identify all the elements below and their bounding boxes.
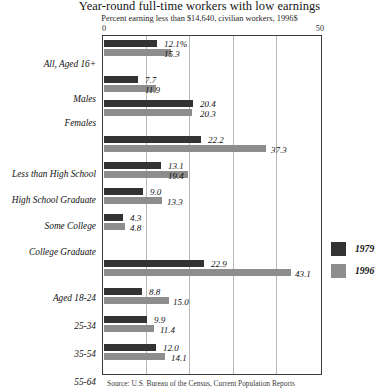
bar-35-54-1979 (104, 316, 147, 323)
category-label-35-54: 35-54 (2, 349, 96, 359)
value-label-females-1996: 20.3 (200, 110, 216, 119)
bar-all-aged-16-plus-1979 (104, 40, 157, 47)
gridline-40 (276, 36, 277, 374)
bar-females-1996 (104, 109, 192, 116)
legend-label-1996: 1996 (355, 265, 374, 277)
legend-entry-1979: 1979 (331, 240, 379, 262)
bar-college-graduate-1996 (104, 223, 125, 230)
value-label-males-1979: 7.7 (145, 76, 156, 85)
bar-55-64-1996 (104, 353, 165, 360)
bar-less-than-high-school-1996 (104, 145, 266, 152)
bar-less-than-high-school-1979 (104, 136, 201, 143)
category-label-less-than-high-school: Less than High School (2, 169, 96, 179)
bar-all-aged-16-plus-1996 (104, 49, 171, 56)
value-label-35-54-1996: 11.4 (160, 326, 175, 335)
value-label-some-college-1979: 9.0 (150, 188, 161, 197)
bar-aged-18-24-1979 (104, 260, 204, 267)
category-label-some-college: Some College (2, 221, 96, 231)
gridline-30 (233, 36, 234, 374)
chart-legend: 1979 1996 (331, 240, 379, 284)
value-label-all-aged-16-plus-1996: 15.3 (164, 50, 180, 59)
legend-swatch-1996 (331, 264, 346, 278)
category-label-high-school-graduate: High School Graduate (2, 195, 96, 205)
value-label-high-school-graduate-1979: 13.1 (168, 162, 184, 171)
bar-some-college-1979 (104, 188, 143, 195)
chart-subtitle: Percent earning less than $14,640, civil… (62, 13, 337, 24)
bar-35-54-1996 (104, 325, 154, 332)
category-label-college-graduate: College Graduate (2, 247, 96, 257)
value-label-25-34-1979: 8.8 (149, 288, 160, 297)
value-label-aged-18-24-1996: 43.1 (295, 270, 311, 279)
value-label-aged-18-24-1979: 22.9 (211, 260, 227, 269)
bar-high-school-graduate-1979 (104, 162, 161, 169)
chart-title: Year-round full-time workers with low ea… (62, 0, 337, 13)
value-label-high-school-graduate-1996: 19.4 (168, 172, 184, 181)
x-axis-tick-labels: 0 50 (102, 24, 322, 35)
value-label-some-college-1996: 13.3 (167, 198, 183, 207)
value-label-females-1979: 20.4 (200, 100, 216, 109)
bar-aged-18-24-1996 (104, 269, 291, 276)
bar-males-1979 (104, 76, 138, 83)
legend-label-1979: 1979 (355, 243, 374, 255)
value-label-less-than-high-school-1979: 22.2 (208, 136, 224, 145)
category-label-25-34: 25-34 (2, 321, 96, 331)
bar-college-graduate-1979 (104, 214, 123, 221)
value-label-college-graduate-1996: 4.8 (130, 224, 141, 233)
category-label-females: Females (2, 118, 96, 128)
plot-area: 12.1% 7.7 20.4 22.2 13.1 9.0 4.3 22.9 8.… (102, 35, 322, 375)
bar-25-34-1996 (104, 297, 169, 304)
category-label-all-aged-16-plus: All, Aged 16+ (2, 59, 96, 69)
bar-females-1979 (104, 100, 193, 107)
bar-55-64-1979 (104, 344, 156, 351)
x-axis-tick-label-0: 0 (102, 24, 106, 34)
value-label-males-1996: 11.9 (145, 86, 160, 95)
x-axis-tick-label-50: 50 (316, 24, 324, 34)
value-label-55-64-1979: 12.0 (163, 344, 179, 353)
value-label-less-than-high-school-1996: 37.3 (271, 146, 287, 155)
legend-swatch-1979 (331, 242, 346, 256)
bar-some-college-1996 (104, 197, 162, 204)
legend-entry-1996: 1996 (331, 262, 379, 284)
gridline-20 (189, 36, 190, 374)
source-note: Source: U.S. Bureau of the Census, Curre… (70, 379, 332, 388)
value-label-25-34-1996: 15.0 (173, 298, 189, 307)
value-label-55-64-1996: 14.1 (171, 354, 187, 363)
bar-25-34-1979 (104, 288, 142, 295)
value-label-35-54-1979: 9.9 (154, 316, 165, 325)
category-label-males: Males (2, 94, 96, 104)
category-label-aged-18-24: Aged 18-24 (2, 293, 96, 303)
value-label-all-aged-16-plus-1979: 12.1% (164, 40, 187, 49)
value-label-college-graduate-1979: 4.3 (130, 214, 141, 223)
